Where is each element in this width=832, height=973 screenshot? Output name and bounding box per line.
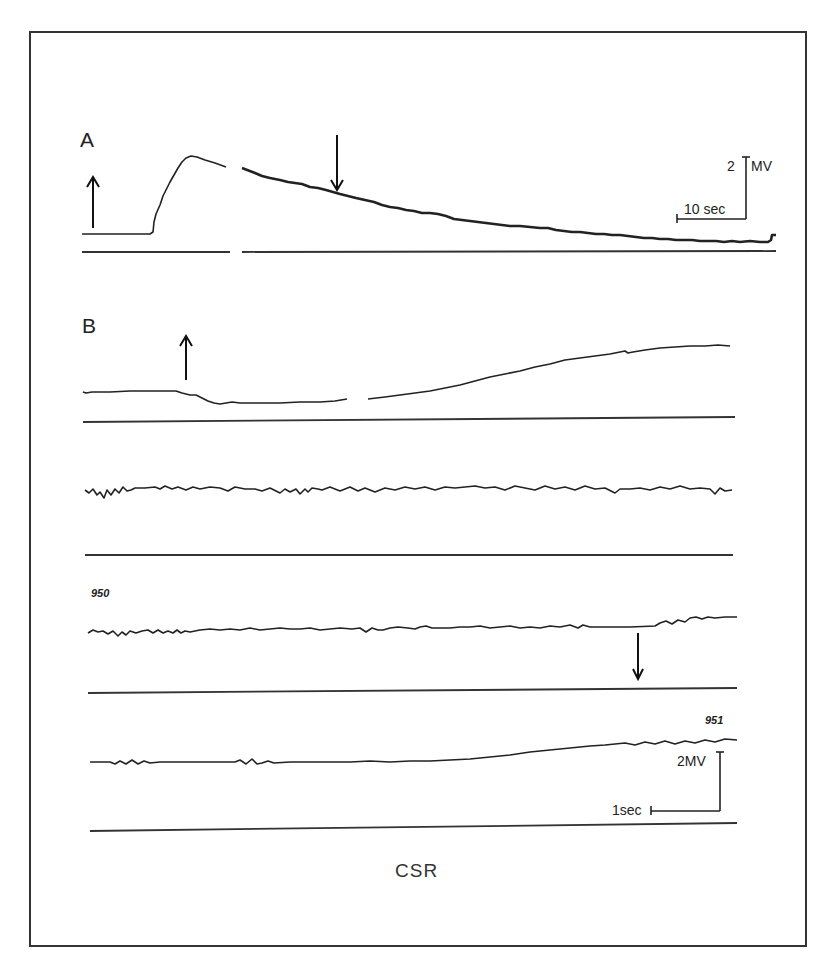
traces-canvas <box>0 0 832 973</box>
stimulus-off-arrow-b-icon <box>633 633 643 679</box>
baseline-sweep-3 <box>88 688 737 693</box>
panel-b-label: B <box>82 314 96 338</box>
scale-b-amplitude: 2MV <box>677 753 706 769</box>
sweep-4 <box>90 739 737 764</box>
scale-b-time: 1sec <box>612 802 642 818</box>
figure: A 2 MV 10 sec B 950 951 2MV 1sec CSR <box>0 0 832 973</box>
panel-a-plot <box>82 135 776 252</box>
sweep-1-segment-1 <box>83 391 347 404</box>
stimulus-off-arrow-icon <box>331 135 343 190</box>
baseline-a-right <box>242 251 776 252</box>
scale-a-amplitude-value: 2 <box>727 158 735 174</box>
stimulus-on-arrow-b-icon <box>180 336 192 380</box>
sweep-1-segment-2 <box>368 345 730 399</box>
figure-caption: CSR <box>395 860 438 882</box>
panel-b-plot <box>83 336 737 831</box>
sweep-3 <box>88 617 737 636</box>
run-number-951: 951 <box>705 714 723 726</box>
baseline-sweep-1 <box>83 417 735 422</box>
stimulus-on-arrow-icon <box>87 177 99 228</box>
panel-a-label: A <box>80 128 94 152</box>
scale-a-time: 10 sec <box>684 201 725 217</box>
scale-a-amplitude-unit: MV <box>751 158 772 174</box>
baseline-sweep-4 <box>90 823 737 831</box>
run-number-950: 950 <box>91 587 109 599</box>
sweep-2 <box>85 486 732 498</box>
trace-a-segment-1 <box>82 156 226 234</box>
